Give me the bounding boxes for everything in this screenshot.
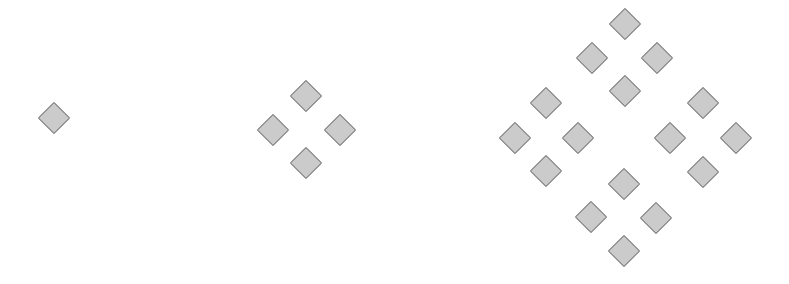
diamond-shape bbox=[609, 8, 642, 41]
diamond-shape bbox=[562, 122, 595, 155]
diamond-shape bbox=[609, 75, 642, 108]
diamond-shape bbox=[687, 156, 720, 189]
diamond-shape bbox=[499, 122, 532, 155]
stage-iteration-2 bbox=[0, 0, 789, 284]
diamond-shape bbox=[687, 87, 720, 120]
diamond-shape bbox=[530, 155, 563, 188]
diamond-shape bbox=[720, 122, 753, 155]
diamond-shape bbox=[530, 87, 563, 120]
diamond-shape bbox=[575, 201, 608, 234]
diamond-shape bbox=[640, 202, 673, 235]
diamond-shape bbox=[641, 42, 674, 75]
diamond-shape bbox=[576, 42, 609, 75]
diamond-shape bbox=[608, 168, 641, 201]
fractal-diagram bbox=[0, 0, 789, 284]
diamond-shape bbox=[608, 235, 641, 268]
diamond-shape bbox=[654, 122, 687, 155]
